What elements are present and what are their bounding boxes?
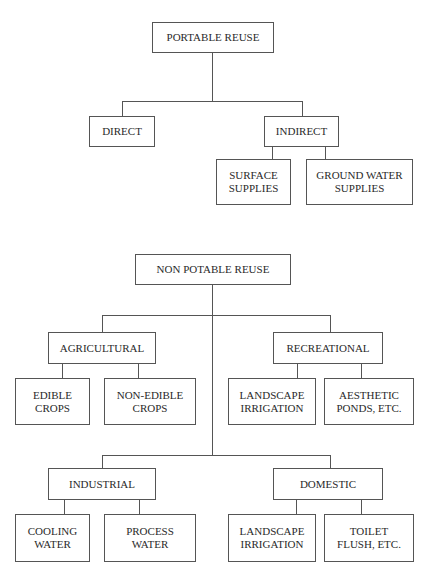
non-potable-reuse-node: NON POTABLE REUSE [135, 254, 291, 285]
connector [212, 284, 213, 455]
industrial-node: INDUSTRIAL [48, 468, 156, 500]
landscape-irrigation-recreational-node: LANDSCAPE IRRIGATION [228, 378, 316, 425]
connector [296, 499, 297, 514]
connector [122, 101, 303, 102]
process-water-node: PROCESS WATER [104, 514, 196, 562]
connector [139, 499, 140, 514]
connector [122, 101, 123, 116]
landscape-irrigation-domestic-node: LANDSCAPE IRRIGATION [228, 514, 316, 562]
edible-crops-node: EDIBLE CROPS [15, 378, 90, 425]
recreational-node: RECREATIONAL [273, 332, 383, 364]
connector [212, 52, 213, 101]
surface-supplies-node: SURFACE SUPPLIES [216, 159, 291, 205]
connector [361, 499, 362, 514]
aesthetic-ponds-node: AESTHETIC PONDS, ETC. [324, 378, 414, 425]
cooling-water-node: COOLING WATER [15, 514, 90, 562]
indirect-node: INDIRECT [264, 116, 339, 147]
connector [361, 363, 362, 378]
direct-node: DIRECT [89, 116, 155, 147]
non-edible-crops-node: NON-EDIBLE CROPS [104, 378, 196, 425]
connector [138, 363, 139, 378]
connector [330, 315, 331, 332]
connector [325, 146, 326, 159]
connector [272, 146, 273, 159]
portable-reuse-node: PORTABLE REUSE [152, 22, 274, 53]
connector [102, 315, 331, 316]
connector [297, 363, 298, 378]
connector [302, 101, 303, 116]
connector [102, 455, 103, 468]
toilet-flush-node: TOILET FLUSH, ETC. [324, 514, 414, 562]
connector [330, 455, 331, 468]
agricultural-node: AGRICULTURAL [48, 332, 156, 364]
connector [102, 455, 331, 456]
connector [64, 499, 65, 514]
connector [102, 315, 103, 332]
ground-water-supplies-node: GROUND WATER SUPPLIES [306, 159, 413, 205]
connector [62, 363, 63, 378]
domestic-node: DOMESTIC [273, 468, 383, 500]
